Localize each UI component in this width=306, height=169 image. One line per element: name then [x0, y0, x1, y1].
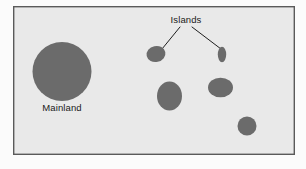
landmass-island-bottom-right[interactable]: Island (bottom right) — [238, 117, 257, 136]
figure-canvas: MainlandIsland (top left)Island (top rig… — [0, 0, 306, 169]
landmass-mainland[interactable]: Mainland — [33, 42, 92, 101]
landmass-island-middle-right[interactable]: Island (middle right) — [208, 78, 233, 98]
label-islands: Islands — [171, 14, 202, 25]
landmass-island-middle-left[interactable]: Island (middle left) — [157, 82, 182, 111]
figure-container: MainlandIsland (top left)Island (top rig… — [0, 0, 306, 169]
landmass-island-top-right[interactable]: Island (top right) — [218, 47, 226, 63]
label-mainland: Mainland — [42, 102, 81, 113]
